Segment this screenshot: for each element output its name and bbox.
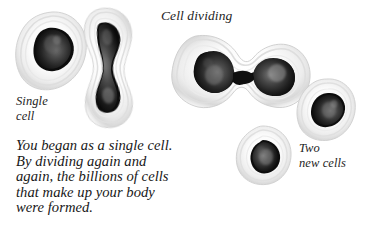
illustration-dividing-cell — [172, 35, 310, 107]
illustration-elongating-cell — [72, 5, 144, 131]
cell-division-figure: Cell dividing Single cell Two new cells … — [0, 0, 370, 234]
caption-body-text: You began as a single cell. By dividing … — [16, 138, 216, 216]
illustration-single-cell — [16, 12, 87, 90]
label-single-cell: Single cell — [16, 94, 48, 124]
label-cell-dividing: Cell dividing — [161, 8, 232, 24]
label-two-new-cells: Two new cells — [299, 141, 346, 171]
illustration-daughter-cell-lower — [236, 126, 291, 185]
